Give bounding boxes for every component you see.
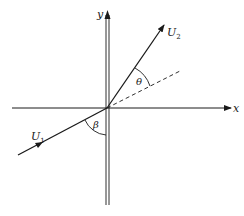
u2-label: U2 xyxy=(167,26,181,41)
u1-label: U1 xyxy=(31,130,45,145)
x-axis-label: x xyxy=(233,102,240,115)
y-axis-arrow-icon xyxy=(105,10,111,19)
vector-diagram: x y U2 θ U1 β xyxy=(0,0,244,216)
u1-extension-dashed xyxy=(107,71,180,108)
theta-label: θ xyxy=(136,76,142,87)
u2-vector xyxy=(107,25,164,108)
beta-label: β xyxy=(92,119,99,130)
y-axis-label: y xyxy=(96,8,104,21)
